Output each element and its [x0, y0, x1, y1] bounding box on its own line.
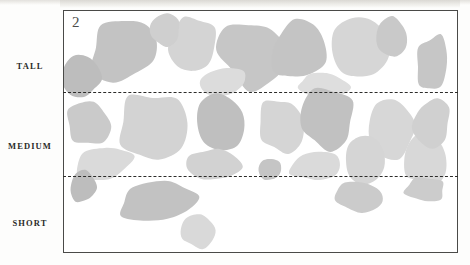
- canopy-blob: [272, 19, 327, 77]
- figure-panel: TALL MEDIUM SHORT 2: [0, 0, 470, 265]
- canopy-blob: [181, 214, 216, 249]
- canopy-blob: [260, 100, 304, 154]
- row-label-tall: TALL: [0, 62, 60, 71]
- canopy-blob: [119, 95, 187, 160]
- canopy-blob: [335, 182, 383, 213]
- blob-canvas: [64, 11, 457, 252]
- row-label-medium: MEDIUM: [0, 142, 60, 151]
- canopy-blob: [67, 101, 111, 143]
- canopy-blob: [120, 181, 199, 221]
- stratum-divider-medium-short: [63, 176, 458, 177]
- canopy-blob: [417, 34, 447, 89]
- canopy-blob: [197, 93, 245, 150]
- canopy-blob: [376, 16, 407, 57]
- row-label-short: SHORT: [0, 219, 60, 228]
- canopy-blob: [346, 136, 385, 185]
- canopy-blob: [403, 177, 443, 201]
- canopy-blob: [300, 88, 353, 152]
- stratum-divider-tall-medium: [63, 92, 458, 93]
- scan-edge-artifact-inner: [60, 0, 460, 8]
- panel-number: 2: [72, 15, 80, 30]
- canopy-blob: [186, 149, 243, 180]
- plot-frame: 2: [63, 10, 458, 253]
